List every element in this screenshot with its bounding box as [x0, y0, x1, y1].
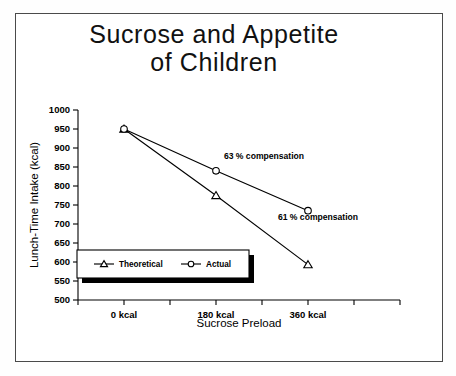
data-point-circle	[213, 168, 220, 175]
series-layer	[120, 125, 312, 268]
series-theoretical	[120, 125, 312, 268]
data-point-triangle	[304, 261, 312, 268]
chart-legend[interactable]: TheoreticalActual	[77, 250, 254, 283]
legend-label: Actual	[206, 260, 231, 269]
y-tick-label: 850	[54, 161, 70, 172]
y-tick-label: 500	[54, 294, 70, 305]
y-axis-tick-labels: 5005506006507007508008509009501000	[49, 104, 70, 305]
legend-label: Theoretical	[119, 260, 163, 269]
x-axis-ticks	[78, 300, 400, 305]
y-tick-label: 800	[54, 180, 70, 191]
x-tick-label: 360 kcal	[290, 309, 327, 320]
y-tick-label: 1000	[49, 104, 70, 115]
y-axis-label: Lunch-Time Intake (kcal)	[28, 142, 40, 268]
y-tick-label: 750	[54, 199, 70, 210]
data-point-circle	[121, 126, 128, 133]
annotation-61-compensation: 61 % compensation	[278, 212, 358, 222]
y-tick-label: 700	[54, 218, 70, 229]
x-axis-label: Sucrose Preload	[196, 317, 281, 329]
y-tick-label: 650	[54, 237, 70, 248]
y-tick-label: 550	[54, 275, 70, 286]
data-point-triangle	[212, 192, 220, 199]
annotation-layer: 63 % compensation 61 % compensation	[224, 151, 358, 223]
figure-root: Sucrose and Appetite of Children 5005506…	[0, 0, 456, 376]
y-tick-label: 600	[54, 256, 70, 267]
y-tick-label: 900	[54, 142, 70, 153]
data-point-circle	[188, 261, 194, 267]
x-tick-label: 0 kcal	[111, 309, 137, 320]
annotation-63-compensation: 63 % compensation	[224, 151, 304, 161]
series-actual	[121, 126, 312, 214]
line-chart: 5005506006507007508008509009501000 0 kca…	[0, 0, 456, 376]
y-tick-label: 950	[54, 123, 70, 134]
